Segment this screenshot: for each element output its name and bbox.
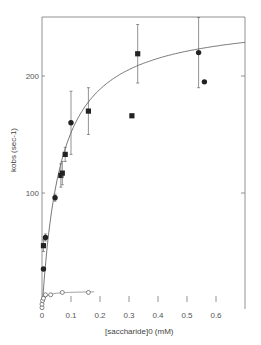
y-axis-label: kobs (sec-1) [9,128,18,172]
square-marker [41,243,46,248]
circle-marker [68,120,73,125]
circle-marker [41,266,46,271]
x-tick-label: 0.2 [94,311,106,320]
open-circle-marker [86,290,90,294]
x-tick-label: 0.1 [65,311,77,320]
x-tick-label: 0.5 [181,311,193,320]
x-tick-label: 0.4 [152,311,164,320]
circle-marker [43,235,48,240]
square-marker [60,171,65,176]
x-tick-label: 0 [40,311,45,320]
plot-frame [42,17,245,309]
square-marker [129,113,134,118]
open-circle-marker [43,293,47,297]
data-points [40,18,207,310]
square-marker [135,51,140,56]
circle-marker [52,195,57,200]
x-tick-label: 0.6 [210,311,222,320]
axis-ticks: 00.10.20.30.40.50.6100200 [26,72,245,320]
x-axis-label: [saccharide]0 (mM) [105,327,174,336]
fit-curves [42,42,245,310]
open-circle-marker [49,293,53,297]
y-tick-label: 100 [26,189,40,198]
square-marker [63,152,68,157]
x-tick-label: 0.3 [123,311,135,320]
saturation-chart: 00.10.20.30.40.50.6100200 [saccharide]0 … [0,0,261,345]
circle-marker [196,50,201,55]
square-marker [86,109,91,114]
open-circle-marker [60,290,64,294]
y-tick-label: 200 [26,72,40,81]
circle-marker [202,79,207,84]
upper-fit-curve [43,42,245,297]
